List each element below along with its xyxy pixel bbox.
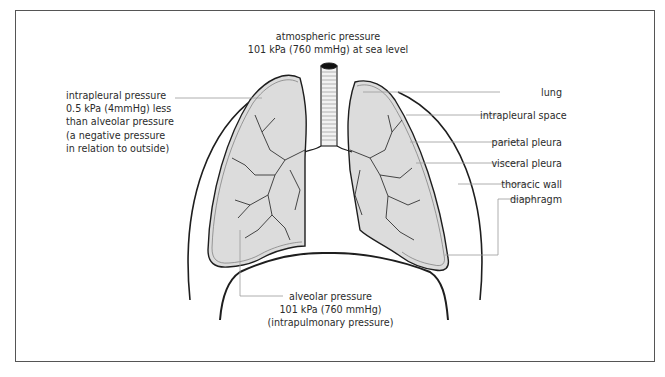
atmospheric-pressure-label: atmospheric pressure 101 kPa (760 mmHg) … <box>228 30 428 56</box>
label-line: intrapleural pressure <box>66 89 174 102</box>
label-diaphragm: diaphragm <box>480 193 562 206</box>
label-line: than alveolar pressure <box>66 115 174 128</box>
label-line: 101 kPa (760 mmHg) <box>238 303 423 316</box>
label-line: (intrapulmonary pressure) <box>238 316 423 329</box>
label-lung: lung <box>500 86 562 99</box>
label-parietal-pleura: parietal pleura <box>480 136 562 149</box>
alveolar-pressure-label: alveolar pressure 101 kPa (760 mmHg) (in… <box>238 290 423 330</box>
trachea <box>305 63 352 152</box>
label-line: atmospheric pressure <box>228 30 428 43</box>
right-lung <box>348 81 448 271</box>
label-line: 101 kPa (760 mmHg) at sea level <box>228 43 428 56</box>
label-line: 0.5 kPa (4mmHg) less <box>66 102 174 115</box>
left-lung <box>208 75 306 267</box>
label-visceral-pleura: visceral pleura <box>480 157 562 170</box>
label-intrapleural-space: intrapleural space <box>480 109 562 122</box>
intrapleural-pressure-label: intrapleural pressure 0.5 kPa (4mmHg) le… <box>66 89 174 155</box>
label-line: (a negative pressure <box>66 129 174 142</box>
label-thoracic-wall: thoracic wall <box>480 178 562 191</box>
label-line: alveolar pressure <box>238 290 423 303</box>
leader-diaphragm <box>445 199 535 255</box>
label-line: in relation to outside) <box>66 142 174 155</box>
